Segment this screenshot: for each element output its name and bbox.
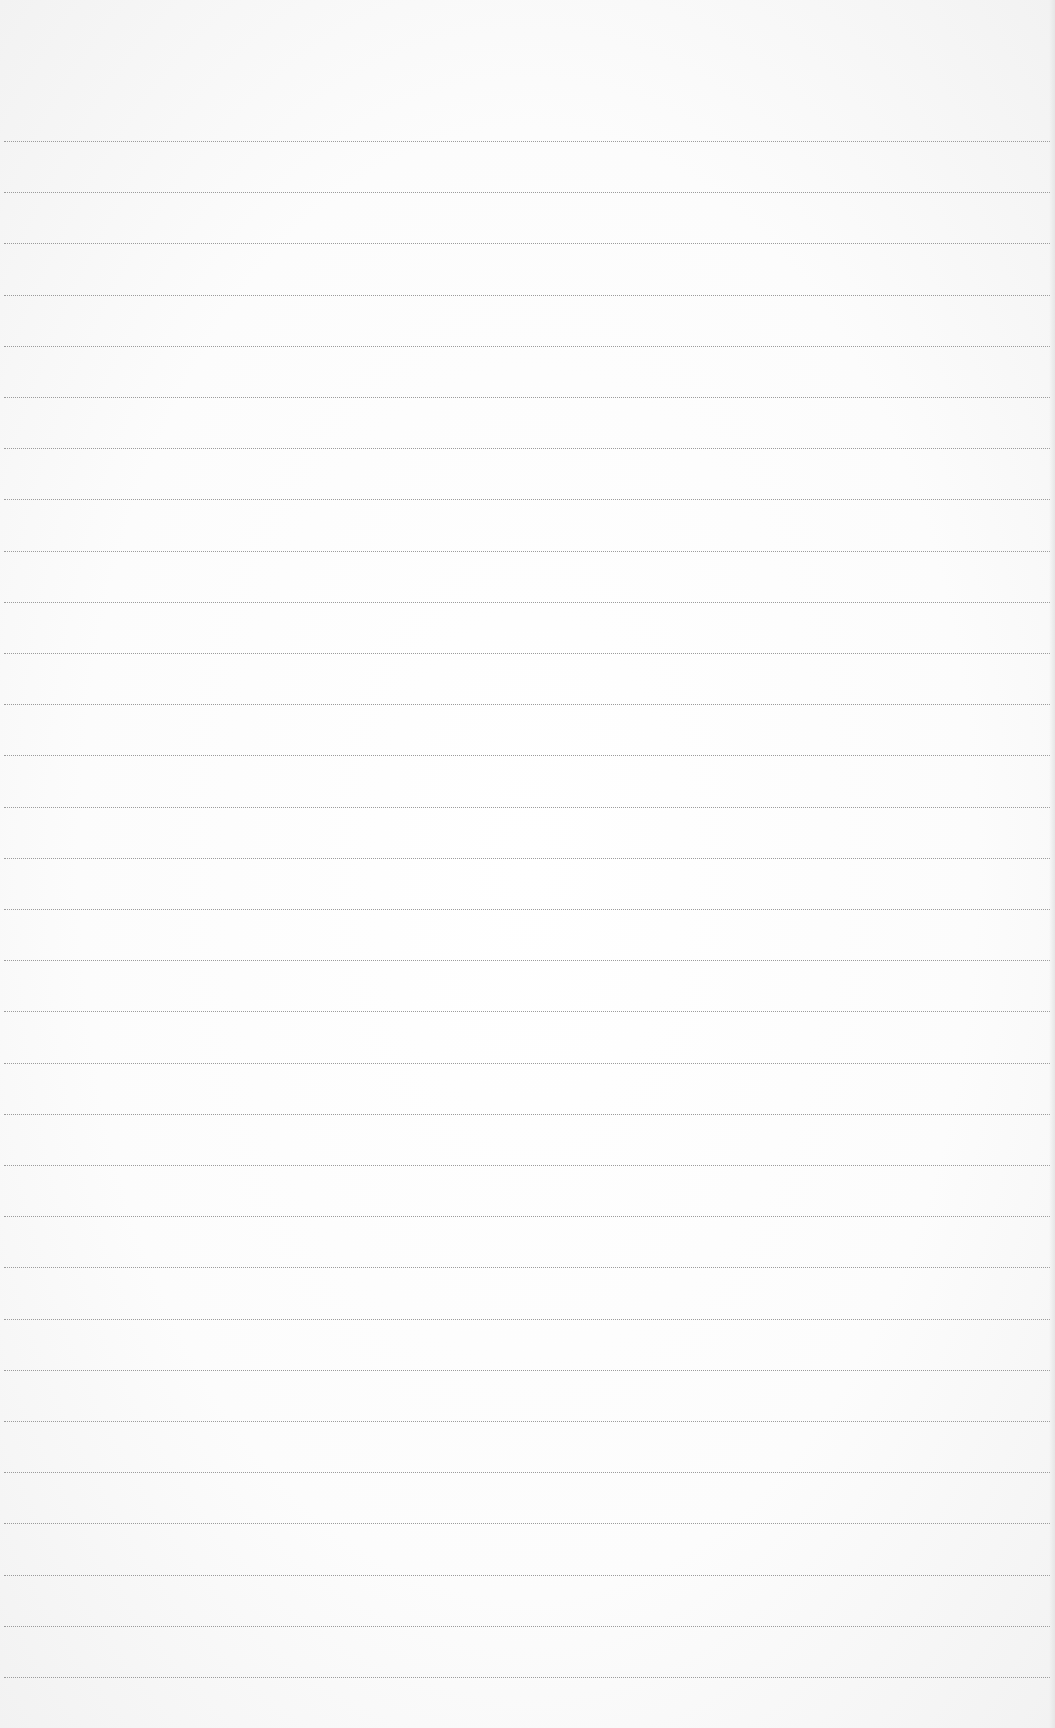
ruled-line <box>4 448 1050 449</box>
ruled-line <box>4 295 1050 296</box>
ruled-line <box>4 499 1050 500</box>
ruled-line <box>4 602 1050 603</box>
ruled-line <box>4 1267 1050 1268</box>
ruled-line <box>4 755 1050 756</box>
ruled-line <box>4 960 1050 961</box>
ruled-line <box>4 1421 1050 1422</box>
ruled-line <box>4 909 1050 910</box>
ruled-line <box>4 1677 1050 1678</box>
ruled-line <box>4 1319 1050 1320</box>
ruled-line <box>4 346 1050 347</box>
ruled-line <box>4 807 1050 808</box>
ruled-line <box>4 551 1050 552</box>
ruled-line <box>4 1575 1050 1576</box>
ruled-line <box>4 1114 1050 1115</box>
ruled-line <box>4 858 1050 859</box>
ruled-line <box>4 141 1050 142</box>
ruled-line <box>4 1626 1050 1627</box>
ruled-line <box>4 243 1050 244</box>
ruled-line <box>4 653 1050 654</box>
ruled-line <box>4 1523 1050 1524</box>
paper-edge-shadow <box>1049 0 1055 1728</box>
ruled-line <box>4 1011 1050 1012</box>
ruled-line <box>4 1216 1050 1217</box>
ruled-paper-sheet <box>0 0 1055 1728</box>
ruled-line <box>4 1165 1050 1166</box>
ruled-line <box>4 397 1050 398</box>
ruled-line <box>4 1472 1050 1473</box>
ruled-line <box>4 192 1050 193</box>
ruled-line <box>4 1370 1050 1371</box>
ruled-line <box>4 704 1050 705</box>
ruled-line <box>4 1063 1050 1064</box>
